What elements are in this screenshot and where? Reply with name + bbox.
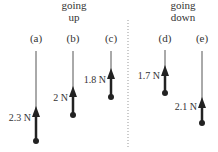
case-label-a: (a)	[30, 32, 43, 45]
mass-dot-c	[108, 94, 114, 100]
case-d: 1.7 N	[138, 50, 169, 96]
case-label-b: (b)	[67, 32, 80, 45]
header-going-up-line2: up	[69, 11, 81, 23]
force-label-b: 2 N	[53, 92, 68, 103]
mass-dot-e	[199, 120, 205, 126]
arrowhead-up-icon	[32, 106, 40, 117]
force-label-e: 2.1 N	[175, 101, 197, 112]
header-going-down-line2: down	[171, 11, 196, 23]
force-label-c: 1.8 N	[84, 74, 106, 85]
arrowhead-up-icon	[107, 68, 115, 79]
case-c: 1.8 N	[84, 51, 115, 100]
case-label-e: (e)	[196, 32, 209, 45]
case-a: 2.3 N	[9, 51, 40, 144]
force-label-a: 2.3 N	[9, 112, 31, 123]
header-going-up-line1: going	[61, 0, 87, 11]
case-label-d: (d)	[159, 32, 172, 45]
case-e: 2.1 N	[175, 51, 206, 126]
forces-diagram: going up going down (a) (b) (c) (d) (e) …	[0, 0, 218, 152]
force-label-d: 1.7 N	[138, 70, 160, 81]
case-b: 2 N	[53, 51, 77, 118]
mass-dot-b	[70, 112, 76, 118]
header-going-down-line1: going	[170, 0, 196, 11]
arrowhead-up-icon	[161, 65, 169, 76]
case-label-c: (c)	[105, 32, 118, 45]
arrowhead-up-icon	[198, 97, 206, 108]
arrowhead-up-icon	[69, 86, 77, 97]
mass-dot-a	[33, 138, 39, 144]
mass-dot-d	[162, 90, 168, 96]
